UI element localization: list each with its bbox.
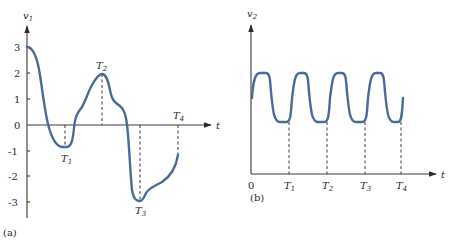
marker-label-t3-a: T3 [135, 205, 147, 218]
y-tick-3: 3 [14, 42, 20, 53]
marker-label-t1-b: T1 [284, 180, 295, 193]
y-tick-neg2: -2 [8, 171, 18, 182]
panel-b: v2 t 0 T1 T2 T3 T4 (b) [247, 8, 446, 203]
origin-label: 0 [248, 180, 254, 191]
v2-waveform [252, 73, 403, 122]
marker-label-t2-a: T2 [96, 60, 108, 73]
v1-axis-label: v1 [23, 10, 33, 23]
caption-b: (b) [250, 192, 264, 203]
panel-a: v1 t 3 2 1 0 -1 -2 -3 T1 T2 T3 T4 [3, 10, 221, 238]
marker-label-t3-b: T3 [360, 180, 372, 193]
y-tick-2: 2 [14, 68, 20, 79]
t-axis-label-b: t [441, 169, 446, 180]
figure: v1 t 3 2 1 0 -1 -2 -3 T1 T2 T3 T4 [0, 0, 454, 241]
y-tick-neg3: -3 [8, 197, 18, 208]
marker-label-t4-a: T4 [173, 110, 184, 123]
marker-label-t2-b: T2 [322, 180, 334, 193]
y-tick-neg1: -1 [8, 146, 18, 157]
marker-label-t1-a: T1 [61, 153, 72, 166]
caption-a: (a) [3, 227, 17, 238]
y-tick-1: 1 [14, 94, 20, 105]
y-tick-0: 0 [14, 120, 20, 131]
v2-axis-label: v2 [247, 8, 258, 21]
marker-label-t4-b: T4 [396, 180, 407, 193]
t-axis-label-a: t [216, 120, 221, 131]
